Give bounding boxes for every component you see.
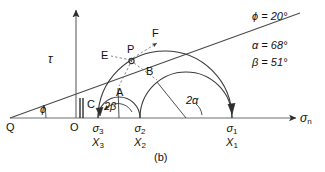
point-label-c: C xyxy=(87,99,95,110)
point-label-p: P xyxy=(127,44,134,55)
sigma-1-label: σ1 xyxy=(217,122,247,136)
origin-label-o: O xyxy=(70,122,79,133)
sigma-2-axis-labels: σ2 X2 xyxy=(125,122,155,151)
pole-x3-label: X3 xyxy=(83,136,113,150)
sigma3-arrowhead xyxy=(96,107,103,116)
sigma-1-axis-labels: σ1 X1 xyxy=(217,122,247,151)
alpha-value-annotation: α = 68° xyxy=(252,40,287,51)
sigma-3-label: σ3 xyxy=(83,122,113,136)
dashed-p-to-e xyxy=(111,56,131,60)
sigma-3-subscript: 3 xyxy=(99,127,103,136)
beta-value-annotation: β = 51° xyxy=(252,57,287,68)
pole-point-dot xyxy=(131,60,133,62)
figure-caption: (b) xyxy=(154,152,167,163)
point-label-b: B xyxy=(146,66,153,77)
dashed-p-to-f xyxy=(133,43,157,58)
apex-label-q: Q xyxy=(6,122,15,133)
phi-angle-label: ϕ xyxy=(40,104,46,115)
sigma-n-subscript: n xyxy=(307,117,311,126)
sigma-3-axis-labels: σ3 X3 xyxy=(83,122,113,151)
radius-to-b xyxy=(157,82,186,118)
sigma-2-subscript: 2 xyxy=(141,127,145,136)
mohr-circle-figure: τ σn Q O ϕ C E P F A B 2β 2α σ3 X3 σ2 X2… xyxy=(0,0,325,172)
point-label-e: E xyxy=(101,50,108,61)
sigma1-arrowhead xyxy=(228,103,235,114)
x2-subscript: 2 xyxy=(141,142,145,151)
pole-x1-label: X1 xyxy=(217,136,247,150)
mohr-circle-sigma3-sigma1 xyxy=(98,51,232,118)
pole-x2-label: X2 xyxy=(125,136,155,150)
sigma-n-axis-label: σn xyxy=(300,112,312,126)
sigma-2-label: σ2 xyxy=(125,122,155,136)
tau-axis-label: τ xyxy=(48,53,53,65)
x3-subscript: 3 xyxy=(99,142,103,151)
sigma-1-subscript: 1 xyxy=(233,127,237,136)
point-label-a: A xyxy=(116,87,123,98)
two-beta-label: 2β xyxy=(104,101,116,112)
two-alpha-label: 2α xyxy=(186,95,198,106)
point-label-f: F xyxy=(152,28,159,39)
x1-subscript: 1 xyxy=(233,142,237,151)
phi-value-annotation: ϕ = 20° xyxy=(252,11,287,22)
mohr-diagram-canvas xyxy=(0,0,325,172)
